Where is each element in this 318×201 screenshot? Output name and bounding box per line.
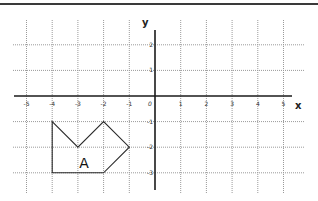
x-tick-label: -3 [75,100,81,107]
x-axis-label: x [295,100,302,111]
x-tick-label: -2 [101,100,107,107]
shape-a-label: A [79,155,89,171]
x-tick-label: 2 [204,100,208,107]
x-tick-label: 4 [256,100,260,107]
y-tick-label: -2 [147,143,153,150]
coordinate-grid: -5-4-3-2-11234521-1-2-3 A x y 0 [0,0,318,201]
x-tick-label: 3 [230,100,234,107]
origin-label: 0 [148,100,152,107]
grid-lines [13,20,305,193]
axes [14,30,292,190]
y-tick-label: 2 [149,41,153,48]
x-tick-label: 1 [179,100,183,107]
x-tick-label: -4 [49,100,55,107]
x-tick-label: 5 [282,100,286,107]
y-tick-label: 1 [149,66,153,73]
x-tick-label: -1 [126,100,132,107]
y-tick-label: -3 [147,169,153,176]
y-axis-label: y [142,17,149,28]
x-tick-label: -5 [24,100,30,107]
y-tick-label: -1 [147,118,153,125]
